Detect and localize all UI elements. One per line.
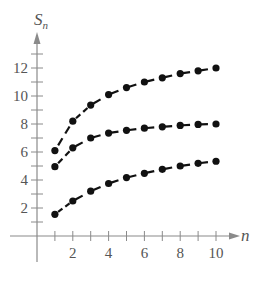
dash-segment <box>183 165 190 166</box>
data-point <box>51 163 58 170</box>
dash-segment <box>58 138 62 145</box>
data-point <box>87 134 94 141</box>
x-tick-label: 10 <box>209 245 224 261</box>
y-axis-label: Sn <box>34 10 49 31</box>
sequence-sum-chart: 24681024681012 Sn n <box>0 0 260 283</box>
dash-segment <box>111 91 118 94</box>
data-point <box>212 64 219 71</box>
data-point <box>69 197 76 204</box>
dash-segment <box>93 187 100 190</box>
x-axis-label: n <box>241 226 250 245</box>
data-point <box>177 70 184 77</box>
dash-segment <box>147 80 154 82</box>
y-tick-label: 6 <box>21 144 29 160</box>
y-axis-arrow-icon <box>34 32 41 44</box>
data-point <box>177 122 184 129</box>
data-point <box>195 67 202 74</box>
data-series <box>51 64 219 218</box>
data-point <box>212 120 219 127</box>
dash-segment <box>147 127 154 128</box>
y-tick-label: 8 <box>21 116 29 132</box>
series-upper <box>51 64 219 154</box>
x-tick-label: 2 <box>69 245 77 261</box>
y-tick-label: 4 <box>21 172 29 188</box>
data-point <box>51 211 58 218</box>
data-point <box>195 121 202 128</box>
y-tick-label: 12 <box>13 60 28 76</box>
dash-segment <box>111 180 118 182</box>
x-tick-label: 4 <box>105 245 113 261</box>
data-point <box>105 180 112 187</box>
dash-segment <box>129 175 136 177</box>
dash-segment <box>83 108 87 112</box>
axis-ticks <box>31 54 216 241</box>
dash-segment <box>147 171 154 173</box>
dash-segment <box>201 69 208 70</box>
axes <box>10 32 240 262</box>
dash-segment <box>58 209 62 212</box>
dash-segment <box>183 72 190 73</box>
data-point <box>195 160 202 167</box>
axis-tick-labels: 24681024681012 <box>13 60 224 261</box>
data-point <box>141 170 148 177</box>
dash-segment <box>65 151 69 156</box>
y-tick-label: 10 <box>13 88 28 104</box>
data-point <box>105 130 112 137</box>
y-tick-label: 2 <box>21 200 29 216</box>
data-point <box>87 102 94 109</box>
dash-segment <box>58 159 62 164</box>
data-point <box>105 91 112 98</box>
dash-segment <box>75 196 82 200</box>
data-point <box>159 166 166 173</box>
dash-segment <box>93 99 100 103</box>
dash-segment <box>75 142 82 146</box>
data-point <box>159 123 166 130</box>
dash-segment <box>129 85 136 87</box>
dash-segment <box>65 203 69 206</box>
series-middle <box>51 120 219 170</box>
dash-segment <box>111 132 118 133</box>
data-point <box>177 162 184 169</box>
dash-segment <box>165 168 172 169</box>
data-point <box>123 174 130 181</box>
series-lower <box>51 158 219 218</box>
x-axis-arrow-icon <box>229 233 240 240</box>
x-tick-label: 6 <box>141 245 149 261</box>
dash-segment <box>201 162 208 163</box>
data-point <box>123 127 130 134</box>
data-point <box>212 158 219 165</box>
dash-segment <box>93 135 100 137</box>
data-point <box>51 147 58 154</box>
data-point <box>123 84 130 91</box>
data-point <box>141 78 148 85</box>
data-point <box>159 74 166 81</box>
dash-segment <box>76 114 80 118</box>
dash-segment <box>129 129 136 130</box>
data-point <box>141 125 148 132</box>
dash-segment <box>165 75 172 77</box>
data-point <box>69 144 76 151</box>
data-point <box>69 118 76 125</box>
data-point <box>87 188 94 195</box>
x-tick-label: 8 <box>176 245 184 261</box>
dash-segment <box>65 126 69 133</box>
dash-segment <box>165 126 172 127</box>
